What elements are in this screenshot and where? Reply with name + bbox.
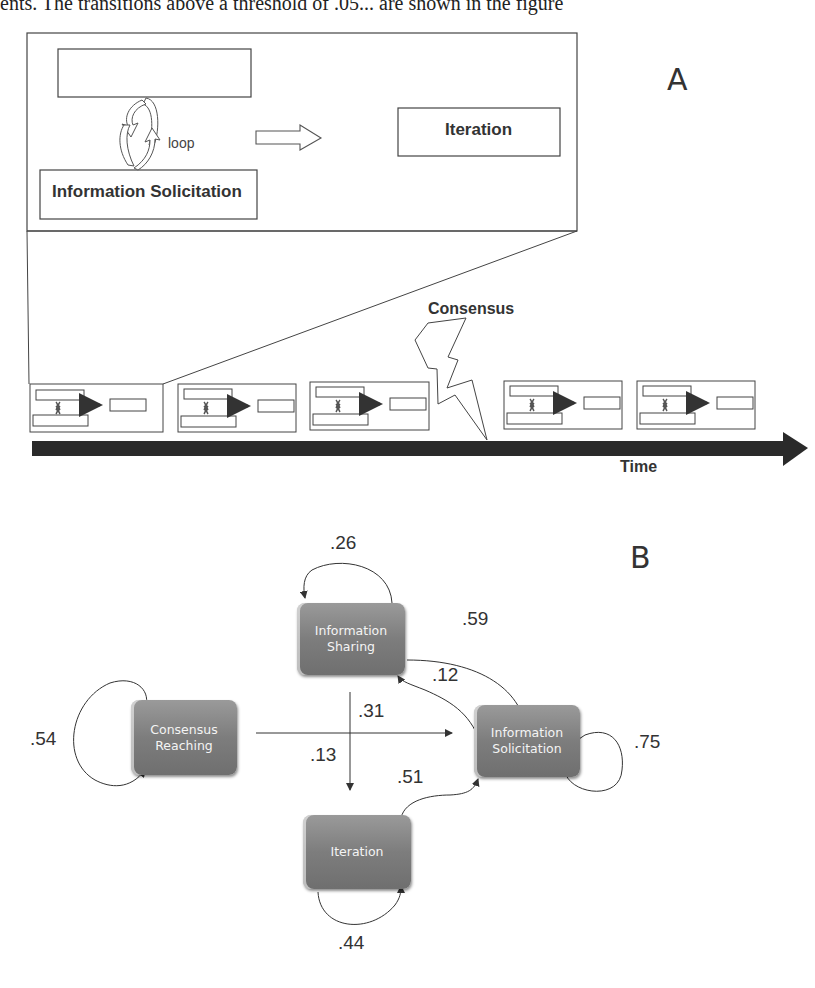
edge-weight-sharing-self: .26 — [330, 532, 356, 554]
edge-weight-iteration-self: .44 — [338, 932, 364, 954]
timeline-episodes — [30, 381, 755, 432]
node-label-line1: Consensus — [150, 722, 217, 738]
panel-b-letter: B — [630, 540, 651, 575]
loop-label: loop — [168, 135, 194, 151]
node-information-sharing: Information Sharing — [297, 603, 405, 675]
node-label-line2: Sharing — [327, 639, 375, 655]
node-label-line1: Information — [491, 725, 563, 741]
node-label-line2: Solicitation — [492, 741, 561, 757]
node-information-solicitation: Information Solicitation — [474, 705, 580, 777]
empty-state-box — [58, 49, 251, 97]
panel-a-letter: A — [667, 62, 688, 97]
edge-weight-sharing-to-iteration: .13 — [310, 744, 336, 766]
node-label-line2: Reaching — [155, 738, 213, 754]
edge-weight-iteration-to-solicitation: .51 — [397, 766, 423, 788]
zoom-box — [27, 33, 577, 384]
edge-weight-consensus-self: .54 — [30, 728, 56, 750]
information-solicitation-label: Information Solicitation — [52, 182, 242, 202]
edge-weight-consensus-to-solicitation: .31 — [358, 700, 384, 722]
edge-weight-solicitation-self: .75 — [634, 731, 660, 753]
node-iteration: Iteration — [303, 815, 411, 889]
time-axis-arrow — [32, 432, 808, 466]
iteration-label: Iteration — [445, 120, 512, 140]
node-label-line1: Iteration — [330, 844, 383, 860]
node-label-line1: Information — [315, 623, 387, 639]
node-consensus-reaching: Consensus Reaching — [131, 700, 237, 775]
consensus-event-label: Consensus — [428, 300, 514, 318]
edge-weight-solicitation-to-sharing: .12 — [432, 664, 458, 686]
time-axis-label: Time — [620, 458, 657, 476]
edge-weight-sharing-to-solicitation: .59 — [462, 608, 488, 630]
